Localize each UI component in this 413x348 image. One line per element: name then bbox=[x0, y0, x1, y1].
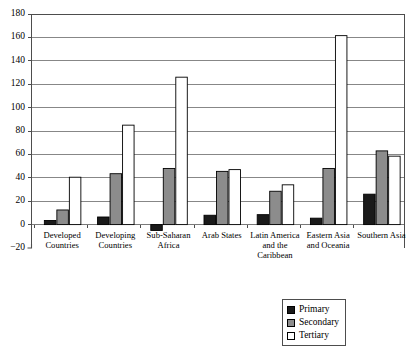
x-axis-category-label-line: Africa bbox=[133, 240, 204, 250]
bar-primary-3 bbox=[204, 215, 216, 224]
bar-chart: 180160140120100806040200−20 DevelopedCou… bbox=[0, 0, 413, 348]
bar-tertiary-0 bbox=[69, 177, 81, 224]
legend-item-primary[interactable]: Primary bbox=[287, 303, 339, 316]
y-axis-tick-label: 0 bbox=[1, 220, 25, 230]
legend-item-tertiary[interactable]: Tertiary bbox=[287, 329, 339, 342]
bar-secondary-0 bbox=[57, 210, 69, 225]
y-axis-tick-label: 40 bbox=[1, 173, 25, 183]
y-axis-tick-label: 80 bbox=[1, 126, 25, 136]
bar-primary-0 bbox=[44, 221, 56, 225]
y-axis bbox=[28, 14, 32, 248]
bar-primary-5 bbox=[310, 218, 322, 224]
bar-secondary-5 bbox=[323, 168, 335, 224]
y-axis-tick-label: 20 bbox=[1, 196, 25, 206]
y-axis-tick-label: 160 bbox=[1, 32, 25, 42]
bar-primary-4 bbox=[257, 215, 269, 225]
y-axis-tick-label: 60 bbox=[1, 149, 25, 159]
bar-secondary-3 bbox=[217, 171, 229, 224]
bar-tertiary-1 bbox=[123, 125, 135, 224]
legend-swatch-icon bbox=[287, 332, 295, 340]
x-axis-category-label: Southern Asia bbox=[346, 230, 413, 240]
legend-item-label: Secondary bbox=[299, 318, 339, 328]
legend-swatch-icon bbox=[287, 306, 295, 314]
bar-secondary-2 bbox=[163, 168, 175, 224]
x-axis-category-label-line: Caribbean bbox=[239, 250, 310, 260]
y-axis-tick-label: 120 bbox=[1, 79, 25, 89]
bar-secondary-4 bbox=[270, 191, 282, 224]
bar-tertiary-2 bbox=[176, 77, 188, 224]
legend-swatch-icon bbox=[287, 319, 295, 327]
legend-item-label: Primary bbox=[299, 305, 330, 315]
x-axis-category-label-line: Southern Asia bbox=[346, 230, 413, 240]
y-axis-tick-label: 100 bbox=[1, 103, 25, 113]
bar-primary-6 bbox=[364, 194, 376, 224]
bar-tertiary-5 bbox=[335, 36, 347, 225]
legend-item-secondary[interactable]: Secondary bbox=[287, 316, 339, 329]
bar-tertiary-3 bbox=[229, 170, 241, 225]
legend-item-label: Tertiary bbox=[299, 331, 329, 341]
x-axis-ticks bbox=[35, 225, 354, 229]
bar-secondary-6 bbox=[376, 151, 388, 225]
y-axis-tick-label: 180 bbox=[1, 9, 25, 19]
chart-canvas bbox=[0, 0, 413, 348]
bar-primary-1 bbox=[98, 217, 110, 225]
bar-secondary-1 bbox=[110, 174, 122, 225]
bar-tertiary-6 bbox=[389, 156, 401, 224]
x-axis-category-label-line: and Oceania bbox=[293, 240, 364, 250]
bar-tertiary-4 bbox=[282, 185, 294, 225]
chart-legend: PrimarySecondaryTertiary bbox=[282, 299, 346, 346]
y-axis-tick-label: 140 bbox=[1, 56, 25, 66]
y-axis-tick-label: −20 bbox=[1, 243, 25, 253]
